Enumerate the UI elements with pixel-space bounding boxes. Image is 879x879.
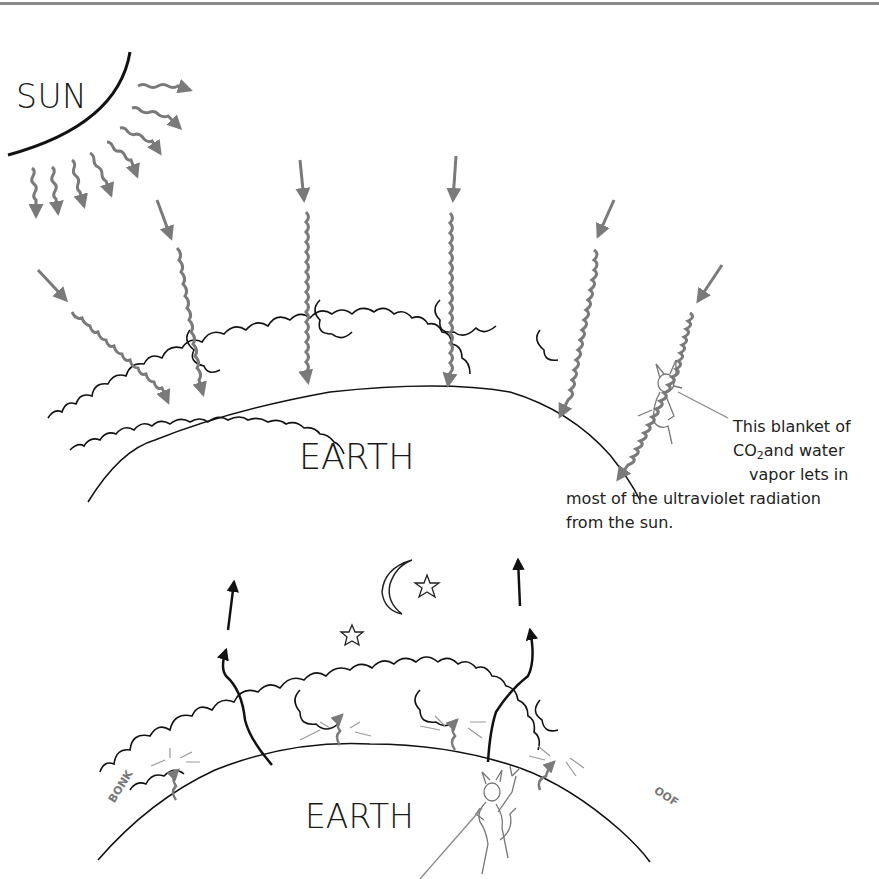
cloud-blanket-bottom bbox=[100, 657, 558, 790]
earth-label-bottom: EARTH bbox=[305, 800, 414, 833]
star-icon bbox=[415, 575, 439, 597]
moon-icon bbox=[382, 560, 412, 614]
caption-subscript: 2 bbox=[757, 449, 764, 462]
bouncing-radiation-rays bbox=[173, 715, 554, 800]
devil-sitting-icon bbox=[638, 360, 728, 444]
caption-line-5: from the sun. bbox=[566, 511, 673, 535]
caption-line-3: vapor lets in bbox=[749, 463, 848, 487]
cloud-blanket-top bbox=[48, 300, 558, 454]
sun-label: SUN bbox=[16, 80, 87, 113]
caption-co: CO bbox=[733, 441, 757, 460]
caption-line-4: most of the ultraviolet radiation bbox=[566, 487, 821, 511]
caption-and-water: and water bbox=[764, 441, 845, 460]
star-icon bbox=[341, 625, 363, 645]
caption-line-1: This blanket of bbox=[733, 415, 851, 439]
earth-label-top: EARTH bbox=[299, 440, 415, 475]
incoming-radiation-rays bbox=[38, 156, 722, 479]
devil-standing-icon bbox=[420, 766, 520, 879]
